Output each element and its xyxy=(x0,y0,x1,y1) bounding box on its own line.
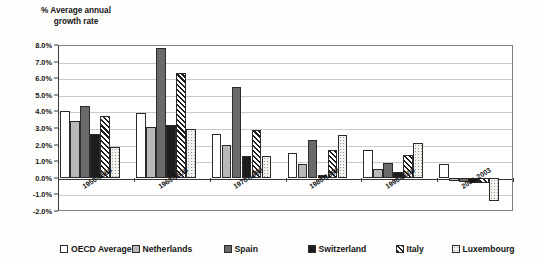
category-tick xyxy=(210,178,211,182)
y-axis-tick-label: 2.0% xyxy=(12,140,52,149)
gridline xyxy=(59,146,512,147)
y-axis-tick-label: -1.0% xyxy=(12,190,52,199)
category-tick xyxy=(361,178,362,182)
y-axis-tick-mark xyxy=(54,94,58,95)
bar-luxembourg-2000-2003 xyxy=(489,178,499,202)
category-tick xyxy=(134,178,135,182)
legend-item-netherlands[interactable]: Netherlands xyxy=(132,244,224,254)
y-axis-tick-mark xyxy=(54,194,58,195)
bar-netherlands-1960-1970 xyxy=(146,127,156,178)
legend-swatch-icon xyxy=(308,245,316,253)
legend-item-spain[interactable]: Spain xyxy=(224,244,308,254)
y-axis-tick-mark xyxy=(54,45,58,46)
legend-label: Netherlands xyxy=(143,244,193,254)
legend-label: Luxembourg xyxy=(463,244,515,254)
bar-luxembourg-1970-1980 xyxy=(262,156,272,178)
category-tick xyxy=(286,178,287,182)
legend-swatch-icon xyxy=(224,245,232,253)
gridline xyxy=(59,112,512,113)
gridline xyxy=(59,129,512,130)
legend-item-oecd-average[interactable]: OECD Average xyxy=(60,244,132,254)
y-axis-tick-label: 5.0% xyxy=(12,90,52,99)
bar-oecd-average-1980-1990 xyxy=(288,153,298,178)
bar-oecd-average-1990-2000 xyxy=(363,150,373,178)
y-axis-line xyxy=(58,45,59,211)
bar-netherlands-1970-1980 xyxy=(222,145,232,178)
bar-oecd-average-1960-1970 xyxy=(136,113,146,178)
gridline xyxy=(59,79,512,80)
bar-netherlands-2000-2003 xyxy=(449,178,459,181)
bar-netherlands-1990-2000 xyxy=(373,169,383,178)
y-axis-tick-label: 0.0% xyxy=(12,173,52,182)
y-axis-tick-mark xyxy=(54,128,58,129)
y-axis-tick-label: 4.0% xyxy=(12,107,52,116)
gridline xyxy=(59,195,512,196)
y-axis-tick-label: 7.0% xyxy=(12,57,52,66)
legend-item-italy[interactable]: Italy xyxy=(396,244,452,254)
bar-netherlands-1950-1960 xyxy=(70,121,80,178)
legend-label: Italy xyxy=(407,244,424,254)
bar-spain-1970-1980 xyxy=(232,87,242,177)
legend-label: Spain xyxy=(235,244,258,254)
chart-legend: OECD AverageNetherlandsSpainSwitzerlandI… xyxy=(60,241,532,257)
plot-area xyxy=(58,45,513,211)
y-axis-tick-mark xyxy=(54,78,58,79)
legend-label: Switzerland xyxy=(319,244,367,254)
bar-spain-1960-1970 xyxy=(156,48,166,177)
legend-swatch-icon xyxy=(132,245,140,253)
y-axis-tick-label: 8.0% xyxy=(12,41,52,50)
y-axis-tick-mark xyxy=(54,111,58,112)
legend-swatch-icon xyxy=(396,245,404,253)
chart-axis-title: % Average annual growth rate xyxy=(6,5,146,27)
y-axis-tick-label: 6.0% xyxy=(12,74,52,83)
y-axis-tick-mark xyxy=(54,211,58,212)
y-axis-tick-mark xyxy=(54,161,58,162)
bar-netherlands-1980-1990 xyxy=(298,164,308,178)
bar-spain-1980-1990 xyxy=(308,140,318,178)
category-tick xyxy=(437,178,438,182)
bar-switzerland-1960-1970 xyxy=(166,125,176,178)
legend-label: OECD Average xyxy=(71,244,132,254)
y-axis-tick-label: 3.0% xyxy=(12,124,52,133)
y-axis-tick-mark xyxy=(54,61,58,62)
bar-chart: % Average annual growth rate 8.0%7.0%6.0… xyxy=(0,0,542,263)
bar-switzerland-1950-1960 xyxy=(90,134,100,178)
bar-spain-1990-2000 xyxy=(383,163,393,178)
y-axis-tick-mark xyxy=(54,177,58,178)
y-axis-tick-label: -2.0% xyxy=(12,207,52,216)
legend-swatch-icon xyxy=(60,245,68,253)
y-axis-tick-label: 1.0% xyxy=(12,157,52,166)
bar-oecd-average-1970-1980 xyxy=(212,134,222,177)
legend-item-luxembourg[interactable]: Luxembourg xyxy=(452,244,515,254)
legend-item-switzerland[interactable]: Switzerland xyxy=(308,244,396,254)
category-tick xyxy=(513,178,514,182)
bar-spain-1950-1960 xyxy=(80,106,90,178)
legend-swatch-icon xyxy=(452,245,460,253)
gridline xyxy=(59,96,512,97)
bar-oecd-average-2000-2003 xyxy=(439,164,449,178)
y-axis-tick-mark xyxy=(54,144,58,145)
gridline xyxy=(59,63,512,64)
bar-oecd-average-1950-1960 xyxy=(60,111,70,178)
bar-italy-1960-1970 xyxy=(176,73,186,178)
